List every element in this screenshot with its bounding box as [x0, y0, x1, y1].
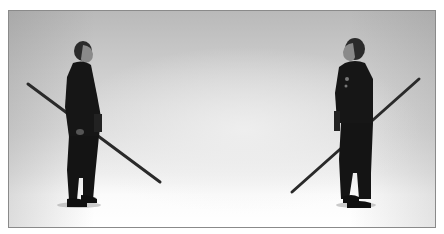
- right-martial-artist: [292, 38, 419, 208]
- photo-scene: [9, 11, 435, 227]
- photo-frame: [8, 10, 436, 228]
- left-martial-artist: [28, 41, 160, 207]
